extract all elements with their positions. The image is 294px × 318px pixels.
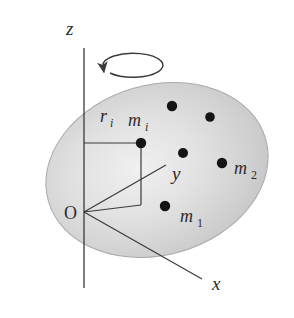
mass-dot-upper-left [167, 101, 177, 111]
mass-label-m-1-base: m [180, 206, 193, 226]
mass-label-m-1-subscript: 1 [197, 216, 203, 230]
rotation-arrow [103, 53, 163, 77]
y-axis-label: y [170, 163, 181, 184]
mass-label-m-i-subscript: i [145, 120, 148, 134]
mass-dot-upper-right [205, 112, 215, 122]
radius-label-base: r [100, 106, 108, 126]
physics-diagram-figure: z y x O r i m i m 2 m 1 [0, 0, 294, 318]
mass-dot-m-1 [160, 201, 170, 211]
diagram-canvas: z y x O r i m i m 2 m 1 [0, 0, 294, 318]
mass-label-m-2-base: m [234, 158, 247, 178]
origin-label: O [64, 203, 77, 223]
mass-dot-m-i [136, 138, 146, 148]
mass-dot-center [178, 148, 188, 158]
mass-dot-m-2 [217, 158, 227, 168]
mass-label-m-2-subscript: 2 [251, 168, 257, 182]
x-axis-label: x [211, 273, 221, 294]
radius-label-subscript: i [110, 116, 113, 130]
mass-label-m-i-base: m [128, 110, 141, 130]
z-axis-label: z [65, 18, 74, 39]
